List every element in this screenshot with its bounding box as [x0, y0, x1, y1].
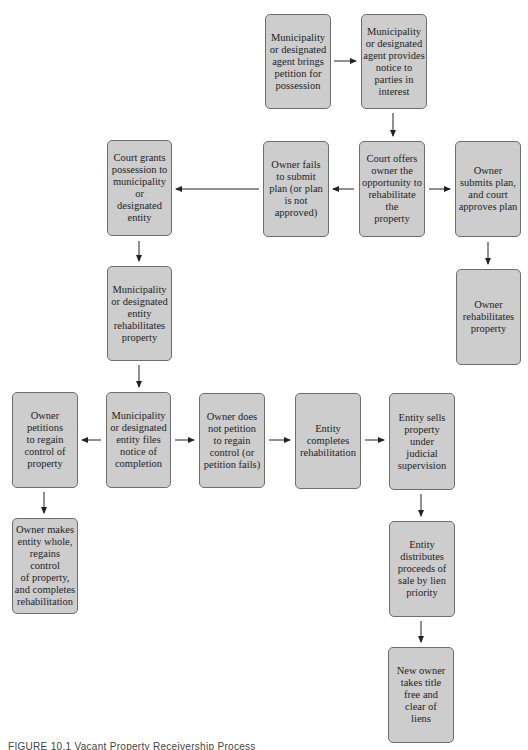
node-label: Municipality or designated entity rehabi…: [111, 284, 167, 344]
node-entity-sells: Entity sells property under judicial sup…: [389, 393, 455, 490]
node-owner-submits-plan: Owner submits plan, and court approves p…: [455, 141, 521, 237]
node-owner-does-not-petition: Owner does not petition to regain contro…: [199, 393, 265, 488]
node-court-offers-opportunity: Court offers owner the opportunity to re…: [359, 141, 425, 237]
node-label: Entity completes rehabilitation: [300, 423, 356, 459]
node-petition-for-possession: Municipality or designated agent brings …: [265, 14, 331, 109]
node-entity-completes: Entity completes rehabilitation: [295, 393, 361, 489]
node-label: Municipality or designated entity files …: [110, 410, 166, 470]
node-notice-to-parties: Municipality or designated agent provide…: [361, 14, 427, 109]
node-label: Owner rehabilitates property: [463, 299, 514, 335]
node-label: New owner takes title free and clear of …: [397, 665, 446, 725]
node-label: Court grants possession to municipality …: [109, 152, 170, 224]
node-owner-fails-plan: Owner fails to submit plan (or plan is n…: [263, 141, 329, 237]
node-court-grants-possession: Court grants possession to municipality …: [107, 140, 172, 236]
node-entity-distributes: Entity distributes proceeds of sale by l…: [389, 521, 455, 617]
arrows-layer: [0, 0, 528, 750]
node-label: Owner fails to submit plan (or plan is n…: [269, 159, 323, 219]
node-label: Municipality or designated agent provide…: [363, 26, 425, 98]
node-new-owner: New owner takes title free and clear of …: [388, 647, 454, 743]
node-label: Owner submits plan, and court approves p…: [459, 165, 518, 213]
node-label: Owner does not petition to regain contro…: [204, 411, 260, 471]
node-label: Municipality or designated agent brings …: [270, 32, 326, 92]
node-entity-rehabilitates: Municipality or designated entity rehabi…: [107, 266, 172, 361]
node-label: Entity sells property under judicial sup…: [398, 412, 446, 472]
node-owner-petitions: Owner petitions to regain control of pro…: [12, 392, 78, 488]
node-owner-rehabilitates: Owner rehabilitates property: [456, 269, 521, 365]
node-label: Court offers owner the opportunity to re…: [361, 153, 423, 225]
node-label: Entity distributes proceeds of sale by l…: [398, 539, 447, 599]
node-owner-makes-whole: Owner makes entity whole, regains contro…: [12, 518, 78, 614]
node-notice-of-completion: Municipality or designated entity files …: [106, 392, 171, 488]
node-label: Owner petitions to regain control of pro…: [24, 410, 65, 470]
figure-caption: FIGURE 10.1 Vacant Property Receivership…: [8, 741, 256, 750]
node-label: Owner makes entity whole, regains contro…: [14, 524, 76, 608]
